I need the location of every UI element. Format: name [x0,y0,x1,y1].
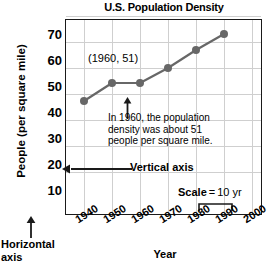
y-axis-title: People (per square mile) [15,19,27,204]
horizontal-axis-callout-line-2: axis [1,251,63,264]
y-tick-40: 40 [32,106,62,119]
horizontal-axis-callout-line-1: Horizontal [1,238,63,251]
chart-figure: U.S. Population Density 70 60 50 40 30 2… [0,0,275,269]
x-axis-tick-labels: 1940 1950 1960 1970 1980 1990 2000 [65,215,262,247]
y-tick-30: 30 [32,132,62,145]
note-line-1: In 1960, the population [108,112,258,124]
vertical-axis-callout: Vertical axis [130,161,194,173]
data-point-1940 [80,97,88,105]
scale-legend: Scale=10 yr [178,186,242,198]
y-tick-10: 10 [32,184,62,197]
data-point-1960 [136,79,144,87]
data-note: In 1960, the population density was abou… [108,112,258,147]
horizontal-axis-arrow-icon [25,216,37,238]
note-line-3: people per square mile. [108,135,258,147]
y-tick-60: 60 [32,54,62,67]
note-line-2: density was about 51 [108,124,258,136]
scale-equals: = [207,186,217,198]
horizontal-axis-callout: Horizontal axis [1,238,63,264]
data-point-1970 [164,64,172,72]
data-point-1990 [220,30,228,38]
y-axis-tick-labels: 70 60 50 40 30 20 10 [32,19,62,215]
scale-value: 10 yr [217,186,241,198]
vertical-axis-arrow-icon [62,163,132,175]
y-tick-50: 50 [32,80,62,93]
y-tick-70: 70 [32,28,62,41]
data-point-1950 [108,79,116,87]
scale-label: Scale [178,186,207,198]
gridline-h-70 [66,16,261,17]
y-tick-20: 20 [32,158,62,171]
x-axis-title: Year [95,248,235,260]
chart-title: U.S. Population Density [65,1,263,13]
data-point-1980 [192,46,200,54]
coordinate-callout: (1960, 51) [88,52,138,64]
